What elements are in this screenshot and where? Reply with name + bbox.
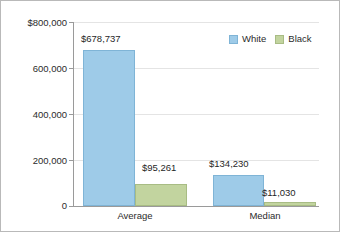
plot-area <box>74 22 319 206</box>
bar-median-black[interactable] <box>264 202 316 206</box>
legend-item-white[interactable]: White <box>229 34 266 44</box>
y-axis-tick-label-0: 0 <box>62 201 67 211</box>
bar-median-white[interactable] <box>213 175 264 206</box>
x-axis-label-median: Median <box>213 210 317 222</box>
y-axis-tick-label-800000: $800,000 <box>27 18 67 28</box>
y-axis-tick-label-200000: 200,000 <box>33 156 67 166</box>
bar-label-average-black: $95,261 <box>142 162 176 173</box>
legend-label-white: White <box>242 34 266 44</box>
legend-swatch-white-icon <box>229 35 238 44</box>
y-axis-tick-label-600000: 600,000 <box>33 64 67 74</box>
gridline-800000 <box>74 22 319 23</box>
legend-item-black[interactable]: Black <box>275 34 311 44</box>
bar-label-average-white: $678,737 <box>81 33 121 44</box>
bar-label-median-white: $134,230 <box>209 158 249 169</box>
legend-label-black: Black <box>288 34 311 44</box>
x-axis-line <box>73 206 319 207</box>
x-axis-label-average: Average <box>83 210 187 222</box>
bar-average-white[interactable] <box>83 50 135 206</box>
bar-average-black[interactable] <box>135 184 187 206</box>
bar-chart: $800,000 600,000 400,000 200,000 0 $678,… <box>0 0 340 232</box>
bar-label-median-black: $11,030 <box>262 187 296 198</box>
legend-swatch-black-icon <box>275 35 284 44</box>
y-axis-tick-label-400000: 400,000 <box>33 110 67 120</box>
legend: White Black <box>229 34 312 44</box>
y-axis: $800,000 600,000 400,000 200,000 0 <box>1 1 67 232</box>
